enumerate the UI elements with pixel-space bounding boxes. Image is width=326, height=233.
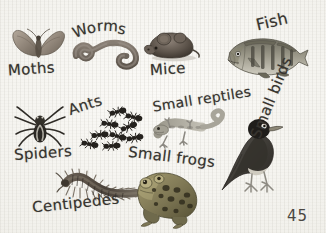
label-spiders: Spiders [14, 145, 73, 162]
label-moths-text: Moths [8, 60, 56, 78]
label-mice-text: Mice [150, 61, 187, 78]
moth-illustration [10, 26, 68, 62]
label-spiders-text: Spiders [14, 144, 73, 163]
label-centipedes: Centipedes [32, 193, 120, 214]
label-fish-text: Fish [255, 11, 290, 34]
worm-illustration [72, 36, 144, 72]
label-worms: Worms Worms [72, 22, 126, 37]
page-canvas: Moths Worms Worms Mice Fish Spiders Ants… [0, 0, 326, 233]
frog-illustration [132, 168, 208, 230]
label-mice: Mice [150, 61, 186, 77]
perch-fish-illustration [204, 32, 322, 84]
label-fish: Fish [255, 11, 290, 33]
label-centipedes-text: Centipedes [31, 191, 120, 215]
page-number: 45 [287, 207, 308, 225]
mouse-illustration [140, 28, 202, 64]
label-moths: Moths [8, 61, 55, 78]
